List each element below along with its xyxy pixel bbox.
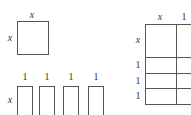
grid-row-label: 1 [136, 76, 141, 86]
square-top-label: x [30, 10, 34, 20]
strip-top-label: 1 [94, 72, 99, 82]
square-side-label: x [8, 33, 12, 43]
grid-column-divider [176, 24, 177, 105]
strip-shape [39, 86, 55, 115]
grid-column-label: x [158, 12, 162, 22]
square-shape [17, 21, 49, 55]
strip-shape [63, 86, 79, 115]
grid-column-label: 1 [182, 12, 187, 22]
grid-row-divider [145, 57, 191, 58]
grid-row-label: 1 [136, 91, 141, 101]
grid-row-label: x [136, 35, 140, 45]
strip-top-label: 1 [23, 72, 28, 82]
grid-outline [145, 24, 191, 105]
strip-top-label: 1 [69, 72, 74, 82]
grid-row-label: 1 [136, 60, 141, 70]
grid-row-divider [145, 73, 191, 74]
strips-side-label: x [8, 95, 12, 105]
strip-shape [88, 86, 104, 115]
strip-top-label: 1 [45, 72, 50, 82]
strip-shape [17, 86, 33, 115]
grid-row-divider [145, 88, 191, 89]
